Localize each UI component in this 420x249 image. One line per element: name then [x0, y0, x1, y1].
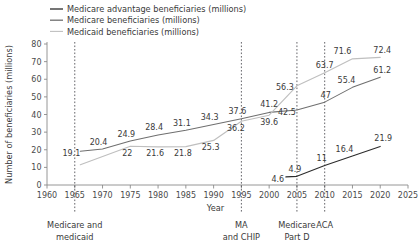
data-label: 21.8 [174, 149, 192, 158]
y-tick-label: 80 [31, 40, 41, 49]
data-label: 36.2 [227, 124, 245, 133]
y-axis-title: Number of beneficiaries (millions) [4, 45, 14, 184]
data-label: 55.4 [338, 76, 356, 85]
data-label: 22 [122, 149, 132, 158]
data-label: 39.6 [260, 118, 278, 127]
x-tick-label: 2015 [342, 191, 362, 200]
event-label-1995: MA [235, 220, 248, 230]
data-label: 71.6 [334, 47, 352, 56]
event-label-2010: ACA [316, 220, 333, 230]
data-label: 16.4 [336, 145, 354, 154]
event-label2-1965: medicaid [56, 232, 93, 242]
data-label: 20.4 [90, 138, 108, 147]
legend-label-0: Medicare advantage beneficiaries (millio… [67, 4, 246, 14]
data-label: 4.9 [289, 165, 302, 174]
x-tick-label: 2005 [287, 191, 307, 200]
data-label: 72.4 [373, 46, 391, 55]
x-tick-label: 1970 [92, 191, 112, 200]
data-label: 21.9 [374, 134, 392, 143]
x-tick-label: 1975 [120, 191, 140, 200]
x-tick-label: 1985 [176, 191, 196, 200]
event-label2-1995: and CHIP [223, 232, 260, 242]
data-label: 11 [317, 154, 327, 163]
data-label: 56.3 [276, 83, 294, 92]
data-label: 61.2 [373, 66, 391, 75]
x-tick-label: 2020 [370, 191, 390, 200]
chart-container: Medicare advantage beneficiaries (millio… [0, 0, 420, 249]
data-label: 25.3 [202, 143, 220, 152]
y-tick-label: 60 [31, 75, 41, 84]
data-label: 4.6 [271, 175, 284, 184]
x-tick-label: 1990 [203, 191, 223, 200]
x-tick-label: 2000 [259, 191, 279, 200]
x-tick-label: 2010 [315, 191, 335, 200]
x-tick-label: 1995 [231, 191, 251, 200]
data-label: 19.1 [62, 149, 80, 158]
x-tick-label: 1965 [65, 191, 85, 200]
data-label: 42.5 [278, 108, 296, 117]
data-label: 31.1 [173, 119, 191, 128]
x-axis-title: Year [206, 203, 225, 213]
y-tick-label: 70 [31, 58, 41, 67]
x-tick-label: 2025 [398, 191, 418, 200]
y-tick-label: 20 [31, 146, 41, 155]
x-tick-label: 1980 [148, 191, 168, 200]
beneficiaries-line-chart: Medicare advantage beneficiaries (millio… [0, 0, 420, 249]
data-label: 24.9 [117, 130, 135, 139]
y-tick-label: 10 [31, 163, 41, 172]
data-label: 21.6 [146, 149, 164, 158]
data-label: 41.2 [260, 100, 278, 109]
data-label: 37.6 [228, 107, 246, 116]
y-tick-label: 50 [31, 93, 41, 102]
y-tick-label: 30 [31, 128, 41, 137]
legend-label-2: Medicaid beneficiaries (millions) [67, 27, 199, 37]
y-tick-label: 0 [36, 181, 41, 190]
event-label-1965: Medicare and [47, 220, 102, 230]
event-label-2005: Medicare [278, 220, 315, 230]
y-tick-label: 40 [31, 111, 41, 120]
x-tick-label: 1960 [37, 191, 57, 200]
data-label: 28.4 [145, 123, 163, 132]
legend-label-1: Medicare beneficiaries (millions) [67, 15, 200, 25]
data-label: 47 [321, 91, 331, 100]
event-label2-2005: Part D [284, 232, 309, 242]
data-label: 63.7 [316, 61, 334, 70]
data-label: 34.3 [201, 113, 219, 122]
